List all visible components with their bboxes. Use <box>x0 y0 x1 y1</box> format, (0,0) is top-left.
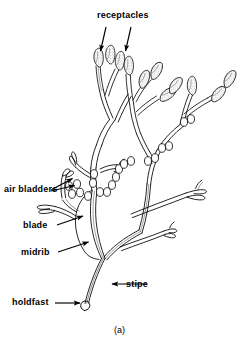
label-stipe: stipe <box>126 280 148 289</box>
air-bladder <box>77 188 84 197</box>
receptacle <box>106 45 115 64</box>
air-bladder <box>128 157 135 166</box>
air-bladder <box>85 192 92 201</box>
receptacle <box>137 69 152 90</box>
left-lower-branch <box>37 205 76 219</box>
arrow-receptacles-left <box>101 27 107 51</box>
algae-illustration <box>0 0 242 343</box>
label-holdfast: holdfast <box>12 298 49 307</box>
air-bladder <box>69 190 76 199</box>
receptacle <box>187 76 197 95</box>
label-receptacles: receptacles <box>97 11 149 20</box>
air-bladder <box>97 188 104 197</box>
label-air-bladders: air bladders <box>4 185 57 194</box>
receptacles-group <box>93 45 238 104</box>
air-bladders-group <box>66 115 195 201</box>
air-bladder <box>166 142 173 151</box>
receptacle <box>148 60 165 81</box>
air-bladder <box>188 115 195 124</box>
arrow-receptacles-right <box>126 27 132 51</box>
arrow-blade <box>57 216 83 225</box>
label-midrib: midrib <box>21 248 50 257</box>
receptacle <box>93 48 104 67</box>
air-bladder <box>181 118 188 127</box>
stipe-part <box>85 259 105 304</box>
air-bladder <box>74 180 81 189</box>
air-bladder <box>91 170 98 179</box>
air-bladder <box>90 179 97 188</box>
air-bladder <box>113 173 120 182</box>
air-bladder <box>104 188 111 197</box>
air-bladder <box>109 181 116 190</box>
receptacle <box>115 51 126 70</box>
figure-caption: (a) <box>114 326 125 335</box>
air-bladder <box>159 144 166 153</box>
mid-right-branch <box>131 180 206 217</box>
air-bladder <box>145 157 152 166</box>
algae-anatomy-figure: receptacles air bladders blade midrib st… <box>0 0 242 343</box>
air-bladder <box>121 160 128 169</box>
right-upper-axis <box>130 104 184 233</box>
receptacle <box>124 56 134 75</box>
label-blade: blade <box>23 221 48 230</box>
receptacle <box>221 68 238 89</box>
main-branch-fork <box>75 190 142 260</box>
air-bladder <box>152 154 159 163</box>
